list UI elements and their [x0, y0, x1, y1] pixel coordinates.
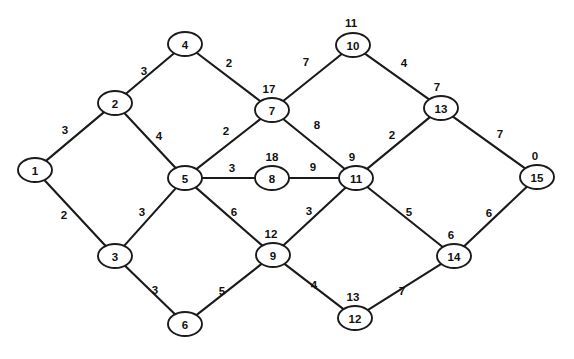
edge-weight-label: 2	[61, 209, 67, 221]
graph-edge	[464, 187, 527, 247]
node-shape[interactable]	[336, 33, 370, 57]
node-cost-label-15: 0	[532, 150, 538, 162]
graph-node-10[interactable]: 10	[336, 33, 370, 57]
graph-node-8[interactable]: 8	[255, 166, 289, 190]
graph-edge	[367, 117, 430, 169]
edge-weight-label: 3	[141, 65, 147, 77]
edge-weight-label: 2	[223, 125, 229, 137]
graph-edge	[44, 180, 105, 246]
graph-node-2[interactable]: 2	[98, 91, 132, 115]
node-cost-label-7: 17	[263, 83, 276, 95]
graph-edge	[365, 54, 429, 100]
graph-edge	[196, 264, 261, 315]
node-shape[interactable]	[98, 244, 132, 268]
node-shape[interactable]	[255, 166, 289, 190]
graph-node-13[interactable]: 13	[424, 96, 458, 120]
graph-node-5[interactable]: 5	[168, 166, 202, 190]
node-cost-label-10: 11	[345, 17, 358, 29]
edge-weight-label: 3	[62, 124, 68, 136]
node-cost-label-9: 12	[265, 228, 278, 240]
node-shape[interactable]	[168, 166, 202, 190]
node-shape[interactable]	[168, 32, 202, 56]
graph-edge	[126, 53, 174, 94]
edge-weight-label: 6	[231, 206, 237, 218]
edge-weight-label: 5	[219, 285, 226, 297]
edge-weight-label: 2	[226, 57, 232, 69]
edge-weight-label: 4	[156, 130, 163, 142]
graph-node-3[interactable]: 3	[98, 244, 132, 268]
node-shape[interactable]	[437, 244, 471, 268]
graph-node-12[interactable]: 12	[338, 306, 372, 330]
edge-weight-label: 9	[310, 161, 316, 173]
graph-edge	[46, 112, 104, 161]
graph-edge	[125, 266, 175, 315]
edge-weight-label: 5	[406, 206, 413, 218]
graph-node-7[interactable]: 7	[255, 98, 289, 122]
node-shape[interactable]	[98, 91, 132, 115]
node-cost-label-11: 9	[349, 151, 355, 163]
graph-node-14[interactable]: 14	[437, 244, 471, 268]
graph-node-1[interactable]: 1	[18, 158, 52, 182]
edge-weight-label: 6	[486, 207, 492, 219]
graph-node-9[interactable]: 9	[256, 243, 290, 267]
graph-node-6[interactable]: 6	[168, 312, 202, 336]
node-shape[interactable]	[520, 165, 554, 189]
node-cost-label-13: 7	[434, 81, 440, 93]
graph-node-15[interactable]: 15	[520, 165, 554, 189]
graph-edge	[196, 187, 263, 245]
edge-weight-label: 7	[303, 56, 309, 68]
node-shape[interactable]	[339, 166, 373, 190]
edge-weight-label: 2	[389, 129, 395, 141]
node-cost-label-14: 6	[448, 229, 454, 241]
edge-weight-label: 3	[139, 206, 145, 218]
edge-weight-label: 4	[311, 279, 318, 291]
graph-edge	[124, 188, 176, 246]
graph-diagram-canvas: 123456789101112131415 323433223657893442…	[0, 0, 574, 359]
edge-weight-label: 8	[314, 119, 321, 131]
edge-weight-label: 3	[229, 162, 235, 174]
edge-weight-label: 4	[401, 57, 408, 69]
graph-node-11[interactable]: 11	[339, 166, 373, 190]
node-cost-label-8: 18	[266, 151, 279, 163]
node-shape[interactable]	[168, 312, 202, 336]
node-shape[interactable]	[256, 243, 290, 267]
graph-node-4[interactable]: 4	[168, 32, 202, 56]
node-layer: 123456789101112131415	[18, 32, 554, 336]
edge-weight-label: 3	[152, 284, 158, 296]
node-shape[interactable]	[338, 306, 372, 330]
graph-edge	[283, 188, 345, 246]
edge-weight-label: 3	[306, 205, 312, 217]
graph-svg: 123456789101112131415 323433223657893442…	[0, 0, 574, 359]
node-cost-label-12: 13	[347, 291, 360, 303]
node-shape[interactable]	[255, 98, 289, 122]
node-shape[interactable]	[424, 96, 458, 120]
node-shape[interactable]	[18, 158, 52, 182]
graph-edge	[283, 54, 342, 101]
graph-edge	[124, 113, 175, 168]
edge-weight-label: 7	[497, 128, 503, 140]
graph-edge	[453, 117, 525, 169]
edge-weight-label: 7	[399, 285, 405, 297]
